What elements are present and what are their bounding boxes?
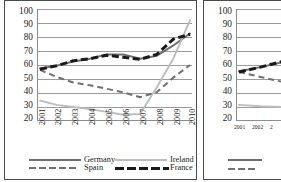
legend-swatch-dash-icon [238,168,245,170]
legend-swatch-dash-icon [228,168,235,170]
y-tick-label: 60 [7,60,33,69]
legend-swatch-dash-icon [127,167,136,170]
legend-item-spain[interactable] [228,165,281,173]
y-tick-label: 50 [7,74,33,83]
y-tick-label: 60 [206,60,232,69]
y-tick-label: 20 [7,114,33,123]
legend-swatch-dash-icon [115,167,124,170]
y-tick-label: 90 [7,20,33,29]
legend-swatch-solid-icon [115,159,167,161]
x-tick-label: 2001 [234,125,245,131]
legend-swatch-dash-icon [248,168,255,170]
figure-container: 100 90 80 70 60 50 40 30 20 2001 2002 20… [0,0,281,182]
x-tick-label: 2005 [106,109,114,125]
legend-swatch-solid-icon [29,159,81,161]
y-tick-label: 30 [7,101,33,110]
x-tick-label: 2002 [252,125,263,131]
y-tick-label: 80 [206,33,232,42]
series-line-france [40,34,190,69]
left-chart-panel: 100 90 80 70 60 50 40 30 20 2001 2002 20… [4,0,197,180]
left-legend: Germany Spain Ireland France [5,154,196,180]
y-tick-label: 90 [206,20,232,29]
legend-swatch-dash-icon [139,167,148,170]
legend-item-spain[interactable]: Spain [29,164,93,172]
y-tick-label: 70 [206,47,232,56]
left-plot-area [37,9,192,121]
x-tick-label: 2002 [55,109,63,125]
x-tick-label: 2 [270,125,273,131]
right-series-layer [237,9,281,121]
x-tick-label: 2003 [72,109,80,125]
x-tick-label: 2010 [189,109,197,125]
y-tick-label: 30 [206,101,232,110]
y-tick-label: 70 [7,47,33,56]
legend-swatch-dash-icon [163,167,169,170]
right-chart-panel: 100 90 80 70 60 50 40 30 20 2001 2002 2 [203,0,281,180]
legend-swatch-dash-icon [49,167,56,169]
legend-swatch-dash-icon [39,167,46,169]
series-line-spain [239,72,281,82]
legend-swatch-solid-icon [228,159,262,161]
x-tick-label: 2001 [39,109,47,125]
series-line-ireland [40,20,190,115]
right-legend [204,154,281,180]
legend-label: France [170,164,193,172]
left-series-layer [38,9,192,121]
y-tick-label: 100 [7,7,33,16]
right-plot-area [236,9,281,121]
y-tick-label: 40 [206,87,232,96]
series-line-france [239,62,281,73]
legend-label: Spain [84,164,103,172]
x-tick-label: 2006 [123,109,131,125]
legend-swatch-dash-icon [151,167,160,170]
legend-item-france[interactable]: France [115,164,195,172]
series-line-ireland [239,105,281,107]
x-tick-label: 2008 [157,109,165,125]
y-tick-label: 50 [206,74,232,83]
x-tick-label: 2004 [89,109,97,125]
y-tick-label: 100 [206,7,232,16]
legend-swatch-dash-icon [29,167,36,169]
y-tick-label: 80 [7,33,33,42]
x-tick-label: 2009 [174,109,182,125]
y-tick-label: 40 [7,87,33,96]
x-tick-label: 2007 [140,109,148,125]
y-tick-label: 20 [206,114,232,123]
legend-item-germany[interactable] [228,156,281,164]
legend-swatch-dash-icon [69,167,76,169]
legend-swatch-dash-icon [59,167,66,169]
